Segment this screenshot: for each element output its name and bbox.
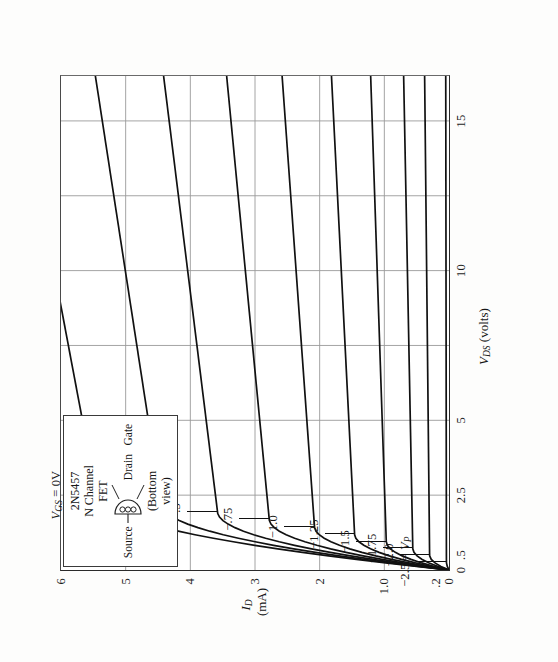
- y-tick-label: 0: [442, 578, 457, 637]
- y-tick-label: 5: [118, 578, 133, 637]
- y-tick-label: 2: [312, 578, 327, 637]
- curve-label--1.75: −1.75: [365, 534, 380, 563]
- curve-label--1.0: −1.0: [266, 515, 281, 538]
- curve-label--2.5vp: −2.5 = VP: [398, 536, 413, 586]
- y-tick-label: 4: [183, 578, 198, 637]
- rotated-figure-wrapper: 0.52.551015 0.21.023456 VGS = 0V−.25−.5−…: [42, 25, 516, 637]
- curve-label--1.5: −1.5: [338, 530, 353, 553]
- curve-label--2.0: −2.0: [382, 543, 397, 566]
- y-tick-label: 1.0: [377, 578, 392, 637]
- device-channel-type: N Channel: [82, 422, 96, 560]
- device-family: FET: [96, 422, 110, 560]
- pin-label-drain: Drain: [122, 454, 134, 480]
- curve-label--1.25: −1.25: [307, 519, 322, 548]
- to92-package-icon: [111, 483, 145, 523]
- curve-label-leader: [187, 511, 217, 512]
- device-part-number: 2N5457: [68, 422, 82, 560]
- curve-label--.75: −.75: [221, 508, 236, 531]
- x-tick-label: 10: [454, 264, 469, 277]
- view-note-line2: view): [159, 422, 173, 560]
- x-tick-label: 15: [454, 114, 469, 127]
- x-tick-label: 0: [454, 567, 469, 573]
- curve-label-leader: [416, 561, 446, 562]
- view-note-line1: (Bottom: [145, 422, 159, 560]
- fet-characteristic-figure: 0.52.551015 0.21.023456 VGS = 0V−.25−.5−…: [42, 25, 516, 637]
- x-tick-label: 5: [454, 417, 469, 423]
- pin-label-source: Source: [122, 526, 135, 558]
- y-tick-label: 6: [54, 578, 69, 637]
- y-axis-title: ID(mA): [239, 583, 269, 627]
- pin-labels-drain-gate: Drain Gate: [122, 424, 135, 481]
- pin-label-gate: Gate: [122, 424, 134, 446]
- x-axis-title: VDS (volts): [476, 308, 492, 365]
- y-tick-label: .2: [429, 578, 444, 637]
- curve-label-leader: [239, 518, 269, 519]
- x-tick-label: .5: [454, 550, 469, 560]
- device-legend-box: 2N5457 N Channel FET Source: [63, 415, 178, 567]
- x-tick-label: 2.5: [454, 487, 469, 503]
- curve-label-vgs0v: VGS = 0V: [48, 471, 63, 520]
